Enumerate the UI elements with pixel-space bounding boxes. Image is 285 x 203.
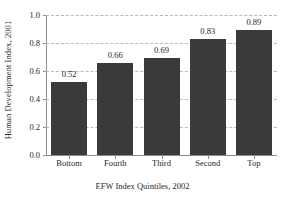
- y-axis-tick-label: 0.8: [14, 39, 40, 48]
- bar: [144, 58, 180, 155]
- y-axis-title-text: Human Development Index, 2001: [3, 21, 13, 140]
- bar-value-label: 0.66: [95, 51, 135, 60]
- bar: [97, 63, 133, 155]
- bar: [236, 30, 272, 155]
- y-axis-tick-label: 0.0: [14, 151, 40, 160]
- y-axis-tick-label: 0.2: [14, 123, 40, 132]
- y-axis-tick-labels: 1.00.80.60.40.20.0: [17, 15, 43, 155]
- y-axis-tickmark: [43, 43, 46, 44]
- y-axis-tick-label: 1.0: [14, 11, 40, 20]
- y-axis-line: [46, 15, 47, 155]
- gridline: [46, 15, 277, 16]
- x-axis-tick-label: Top: [226, 159, 282, 168]
- y-axis-tickmark: [43, 155, 46, 156]
- y-axis-tickmark: [43, 99, 46, 100]
- y-axis-title: Human Development Index, 2001: [0, 0, 16, 160]
- bar-value-label: 0.69: [142, 46, 182, 55]
- plot-area: 0.520.660.690.830.89: [46, 15, 277, 155]
- y-axis-tickmark: [43, 71, 46, 72]
- bar: [190, 39, 226, 155]
- y-axis-tick-label: 0.6: [14, 67, 40, 76]
- bar-value-label: 0.89: [234, 18, 274, 27]
- y-axis-tick-label: 0.4: [14, 95, 40, 104]
- y-axis-tickmark: [43, 15, 46, 16]
- x-axis-tick-labels: BottomFourthThirdSecondTop: [46, 159, 277, 172]
- bar: [51, 82, 87, 155]
- bar-value-label: 0.52: [49, 70, 89, 79]
- y-axis-tickmark: [43, 127, 46, 128]
- x-axis-title: EFW Index Quintiles, 2002: [0, 181, 285, 191]
- bar-chart: Human Development Index, 2001 1.00.80.60…: [0, 0, 285, 203]
- bar-value-label: 0.83: [188, 27, 228, 36]
